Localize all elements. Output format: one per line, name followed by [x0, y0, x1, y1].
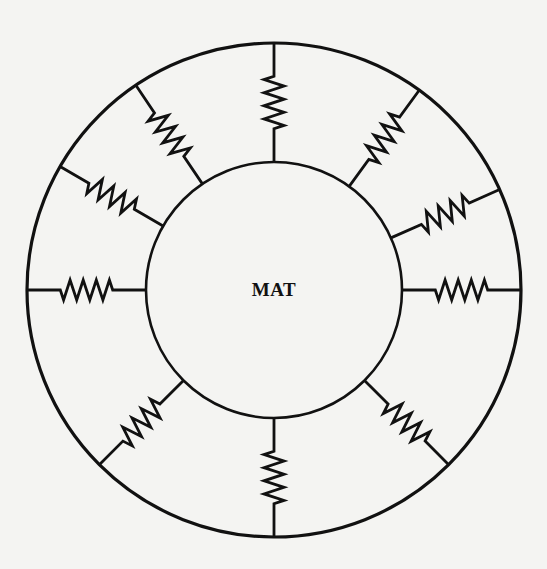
center-label-mat: MAT	[252, 279, 296, 301]
spring-element	[264, 418, 284, 537]
spring-element	[264, 43, 284, 162]
spring-element	[391, 190, 500, 238]
spring-element	[60, 167, 163, 227]
spring-element	[365, 381, 449, 465]
spring-element	[402, 280, 521, 300]
spring-element	[99, 381, 183, 465]
spring-element	[349, 90, 419, 186]
spring-element	[27, 280, 146, 300]
spring-element	[136, 85, 203, 184]
